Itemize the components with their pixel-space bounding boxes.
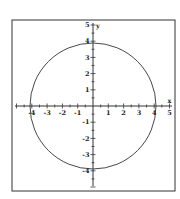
x-tick-label: 1 [106,109,111,117]
y-tick-label: 3 [85,54,90,62]
x-tick-label: -3 [43,109,51,117]
x-axis-label: x [168,97,172,105]
y-tick-label: -3 [82,151,90,159]
y-tick-label: 1 [85,86,90,94]
y-tick-label: 2 [85,70,90,78]
x-tick-label: 2 [121,109,126,117]
y-tick-label: 4 [85,37,90,45]
x-tick-label: -2 [59,109,66,117]
y-tick-label: -1 [82,118,89,126]
circle-plot: -4-3-2-11234554321-1-2-3-4 x y [0,0,180,199]
y-axis-label: y [95,22,100,30]
axes [15,23,172,186]
x-tick-label: -4 [28,109,36,117]
y-tick-label: 5 [85,21,90,29]
x-tick-label: 5 [167,109,172,117]
y-tick-label: -2 [82,135,89,143]
x-tick-label: 3 [137,109,142,117]
x-tick-label: -1 [74,109,81,117]
